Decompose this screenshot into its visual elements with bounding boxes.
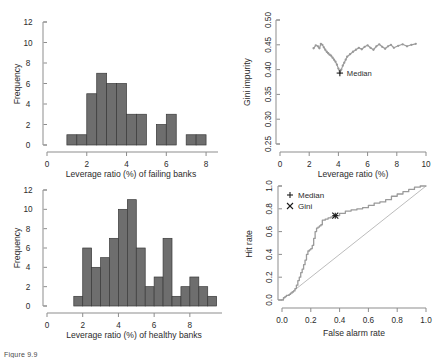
gini-segment <box>331 56 332 58</box>
y-tick-labels: 0.00.20.40.60.81.0 <box>265 180 282 306</box>
histogram-bar <box>83 248 92 306</box>
gini-segment <box>314 45 316 48</box>
histogram-bar <box>118 209 127 306</box>
histogram-bar <box>196 135 206 145</box>
gini-impurity-svg: 0.250.300.350.400.450.50 0246810 Median … <box>230 0 436 180</box>
x-tick-label: 0 <box>278 160 283 169</box>
x-axis-title: Leverage ratio (%) of healthy banks <box>66 330 202 340</box>
x-tick-labels: 02468 <box>45 313 193 330</box>
y-tick-label: 8 <box>26 225 31 234</box>
histogram-bar <box>74 296 83 306</box>
figure-container: 024681012 02468 Frequency Leverage ratio… <box>0 0 436 358</box>
y-tick-label: 6 <box>26 244 31 253</box>
x-tick-label: 0 <box>45 321 50 330</box>
x-tick-label: 8 <box>188 321 193 330</box>
gini-segment <box>341 66 342 70</box>
histogram-bar <box>77 135 87 145</box>
gini-segment <box>368 45 371 47</box>
legend-label: Gini <box>298 202 312 211</box>
y-tick-label: 0 <box>26 302 31 311</box>
histogram-bar <box>97 73 107 145</box>
gini-segment <box>324 47 325 49</box>
gini-segment <box>376 44 379 46</box>
gini-segment <box>330 55 331 56</box>
x-tick-label: 8 <box>204 160 209 169</box>
y-tick-label: 0.6 <box>265 225 274 237</box>
y-axis-title: Frequency <box>12 63 22 104</box>
histogram-bars <box>67 73 206 145</box>
gini-segment <box>385 46 388 48</box>
y-tick-label: 2 <box>26 283 31 292</box>
y-tick-label: 0 <box>26 141 31 150</box>
histogram-bar <box>136 114 146 145</box>
histogram-bar <box>156 125 166 146</box>
gini-segment <box>353 50 356 52</box>
roc-curve-svg: 0.00.20.40.60.81.0 0.00.20.40.60.81.0 Me… <box>230 178 436 353</box>
gini-segment <box>371 48 374 50</box>
gini-segment <box>322 45 323 47</box>
x-tick-label: 8 <box>395 160 400 169</box>
median-annotation-label: Median <box>347 69 372 78</box>
x-tick-label: 0.8 <box>392 316 404 325</box>
y-tick-label: 0.4 <box>265 248 274 260</box>
histogram-bar <box>127 114 137 145</box>
histogram-bar <box>117 84 127 146</box>
y-tick-label: 0.40 <box>264 61 273 77</box>
gini-segment <box>373 46 376 49</box>
histogram-bar <box>110 238 119 306</box>
histogram-bar <box>186 135 196 145</box>
y-tick-labels: 0.250.300.350.400.450.50 <box>264 12 280 152</box>
legend: MedianGini <box>287 191 324 211</box>
gini-segment <box>350 52 353 54</box>
gini-segment <box>359 48 362 49</box>
x-tick-labels: 0246810 <box>278 152 431 169</box>
histogram-bar <box>101 258 110 306</box>
gini-segment <box>337 65 338 69</box>
figure-caption: Figure 9.9 <box>4 351 38 358</box>
y-tick-label: 1.0 <box>265 180 274 192</box>
histogram-bars <box>74 200 217 306</box>
x-tick-label: 6 <box>164 160 169 169</box>
histogram-bar <box>208 296 217 306</box>
gini-segment <box>334 60 335 62</box>
y-tick-label: 0.30 <box>264 111 273 127</box>
gini-segment <box>407 45 411 46</box>
x-tick-label: 0.4 <box>334 316 346 325</box>
x-tick-label: 6 <box>152 321 157 330</box>
histogram-bar <box>163 238 172 306</box>
x-axis-title: False alarm rate <box>323 328 385 338</box>
histogram-bar <box>181 287 190 306</box>
histogram-bar <box>92 267 101 306</box>
gini-segment <box>347 54 350 56</box>
gini-segment <box>327 52 328 53</box>
x-tick-label: 4 <box>336 160 341 169</box>
panel-roc-curve: 0.00.20.40.60.81.0 0.00.20.40.60.81.0 Me… <box>230 178 436 353</box>
histogram-bar <box>166 114 176 145</box>
histogram-bar <box>107 84 117 146</box>
y-tick-label: 0.0 <box>265 294 274 306</box>
x-tick-label: 6 <box>365 160 370 169</box>
x-tick-label: 10 <box>421 160 431 169</box>
histogram-bar <box>136 248 145 306</box>
histogram-bar <box>145 287 154 306</box>
gini-segment <box>388 45 391 46</box>
x-tick-label: 4 <box>124 160 129 169</box>
y-tick-label: 8 <box>26 59 31 68</box>
legend-label: Median <box>298 191 324 200</box>
gini-segment <box>398 44 402 45</box>
y-axis-line <box>276 20 280 144</box>
y-tick-label: 4 <box>26 263 31 272</box>
panel-failing-banks-histogram: 024681012 02468 Frequency Leverage ratio… <box>0 0 230 180</box>
y-axis-line <box>278 186 282 300</box>
x-tick-label: 2 <box>307 160 312 169</box>
x-tick-label: 0.0 <box>276 316 288 325</box>
gini-segment <box>333 58 334 60</box>
gini-segment <box>403 44 407 46</box>
x-tick-label: 1.0 <box>420 316 432 325</box>
panel-healthy-banks-histogram: 024681012 02468 Frequency Leverage ratio… <box>0 178 230 353</box>
y-axis-title: Hit rate <box>244 230 254 258</box>
x-tick-label: 4 <box>116 321 121 330</box>
x-tick-label: 0 <box>45 160 50 169</box>
y-tick-label: 10 <box>23 205 33 214</box>
histogram-bar <box>172 296 181 306</box>
